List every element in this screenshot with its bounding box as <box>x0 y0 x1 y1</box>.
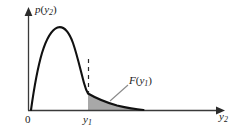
x-tick-label-subscript: 1 <box>88 118 92 127</box>
y-axis-label: p(y2) <box>35 4 57 17</box>
density-curve-plot <box>0 0 236 136</box>
area-label-close-paren: ) <box>148 74 152 86</box>
origin-tick-label: 0 <box>25 114 31 125</box>
area-label-leader-line <box>110 85 128 101</box>
x-axis-label-subscript: 2 <box>224 115 228 124</box>
area-annotation-label: F(y1) <box>129 75 152 88</box>
y-axis-label-close-paren: ) <box>53 3 57 15</box>
density-curve <box>31 27 144 110</box>
x-axis-label: y2 <box>219 111 228 124</box>
x-tick-label-y1: y1 <box>83 114 92 127</box>
y-axis-arrow-icon <box>25 7 33 16</box>
area-label-base: F <box>129 74 136 86</box>
probability-density-figure: p(y2) y2 0 y1 F(y1) <box>0 0 236 136</box>
